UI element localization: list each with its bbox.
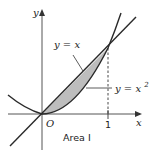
tick-label-x1: 1 (105, 119, 111, 130)
parabola-label-exponent: 2 (143, 81, 149, 89)
x-axis-label: x (136, 117, 142, 128)
parabola-label-base: y = x (114, 83, 141, 94)
area-between-curves-diagram: y x O 1 y = x y = x 2 Area I (0, 0, 154, 157)
line-equation-label: y = x (53, 39, 80, 50)
parabola-equation-label: y = x 2 (114, 81, 149, 94)
line-y-equals-x (10, 17, 136, 146)
y-axis-label: y (32, 7, 39, 18)
leader-line-y-equals-x (73, 55, 83, 71)
origin-label: O (46, 118, 54, 129)
region-label: Area I (63, 132, 91, 143)
y-axis-arrow-icon (39, 9, 45, 16)
